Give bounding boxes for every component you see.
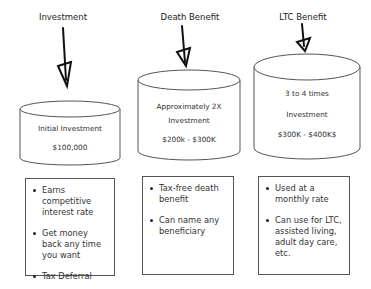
arrow-down-icon	[297, 24, 310, 51]
cylinder-text-death-benefit: Approximately 2X Investment $200k - $300…	[138, 102, 240, 145]
cylinder-line1: Approximately 2X	[138, 102, 240, 112]
cylinder-line2: Investment	[254, 110, 360, 120]
cylinder-text-ltc-benefit: 3 to 4 times Investment $300K - $400K$	[254, 89, 360, 140]
bullet-item: Used at a monthly rate	[263, 183, 345, 205]
arrow-down-icon	[177, 26, 190, 66]
bullet-item: Tax-free death benefit	[147, 183, 229, 205]
cylinder-amount: $100,000	[20, 143, 120, 153]
cylinder-text-investment: Initial Investment $100,000	[20, 124, 120, 153]
cylinder-line2: Investment	[138, 116, 240, 126]
bullet-box-investment: Earns competitive interest rate Get mone…	[25, 178, 115, 276]
bullet-item: Can name any beneficiary	[147, 215, 229, 237]
bullet-item: Get money back any time you want	[30, 228, 110, 261]
bullet-box-ltc-benefit: Used at a monthly rate Can use for LTC, …	[258, 176, 350, 275]
bullet-box-death-benefit: Tax-free death benefit Can name any bene…	[142, 176, 234, 275]
bullet-item: Tax Deferral	[30, 271, 110, 282]
bullet-item: Earns competitive interest rate	[30, 185, 110, 218]
cylinder-line1: 3 to 4 times	[254, 89, 360, 99]
cylinder-line1: Initial Investment	[20, 124, 120, 134]
bullet-item: Can use for LTC, assisted living, adult …	[263, 215, 345, 259]
cylinder-amount: $300K - $400K$	[254, 130, 360, 140]
arrow-down-icon	[58, 28, 71, 86]
cylinder-amount: $200k - $300K	[138, 135, 240, 145]
